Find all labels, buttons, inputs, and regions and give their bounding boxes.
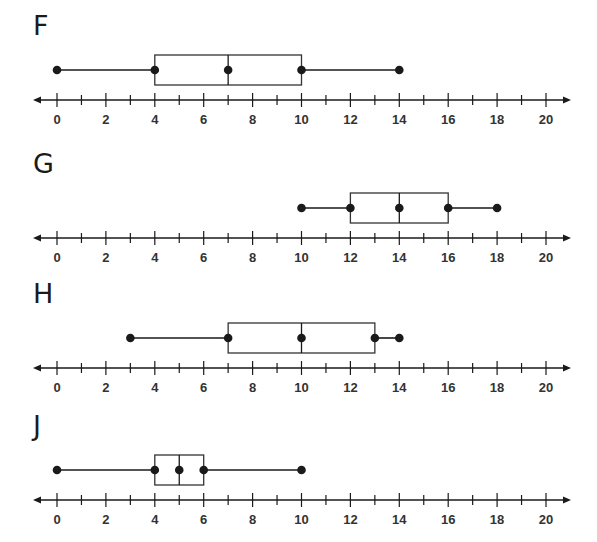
tick-label: 10 [294, 250, 308, 265]
tick-label: 14 [392, 380, 407, 395]
tick-label: 16 [441, 380, 455, 395]
tick-label: 10 [294, 512, 308, 527]
arrow-right-icon [563, 235, 571, 242]
tick-label: 18 [490, 380, 504, 395]
tick-label: 0 [53, 380, 60, 395]
tick-label: 18 [490, 512, 504, 527]
tick-label: 12 [343, 250, 357, 265]
tick-label: 14 [392, 250, 407, 265]
tick-label: 0 [53, 512, 60, 527]
arrow-left-icon [33, 497, 41, 504]
point-q3 [297, 66, 306, 75]
tick-label: 12 [343, 112, 357, 127]
point-q1 [151, 466, 160, 475]
point-q3 [444, 204, 453, 213]
point-q1 [224, 334, 233, 343]
tick-label: 4 [151, 250, 159, 265]
tick-label: 0 [53, 250, 60, 265]
tick-label: 6 [200, 112, 207, 127]
tick-label: 6 [200, 250, 207, 265]
tick-label: 16 [441, 112, 455, 127]
point-q3 [371, 334, 380, 343]
tick-label: 4 [151, 512, 159, 527]
tick-label: 6 [200, 380, 207, 395]
tick-label: 18 [490, 250, 504, 265]
tick-label: 10 [294, 380, 308, 395]
tick-label: 0 [53, 112, 60, 127]
arrow-right-icon [563, 97, 571, 104]
point-min [126, 334, 135, 343]
point-max [395, 334, 404, 343]
point-q1 [151, 66, 160, 75]
box-plot-panel-g: G02468101214161820 [0, 138, 597, 273]
point-median [224, 66, 233, 75]
tick-label: 14 [392, 512, 407, 527]
tick-label: 2 [102, 250, 109, 265]
tick-label: 20 [539, 112, 553, 127]
arrow-left-icon [33, 365, 41, 372]
tick-label: 6 [200, 512, 207, 527]
tick-label: 8 [249, 380, 256, 395]
point-min [53, 66, 62, 75]
arrow-right-icon [563, 365, 571, 372]
arrow-left-icon [33, 97, 41, 104]
point-max [493, 204, 502, 213]
box-plot-panel-j: J02468101214161820 [0, 400, 597, 535]
arrow-right-icon [563, 497, 571, 504]
tick-label: 18 [490, 112, 504, 127]
point-median [395, 204, 404, 213]
tick-label: 20 [539, 380, 553, 395]
box-plot-svg: 02468101214161820 [0, 0, 597, 135]
box-plot-panel-h: H02468101214161820 [0, 268, 597, 403]
box-plot-svg: 02468101214161820 [0, 400, 597, 535]
arrow-left-icon [33, 235, 41, 242]
point-max [297, 466, 306, 475]
tick-label: 10 [294, 112, 308, 127]
tick-label: 2 [102, 112, 109, 127]
point-q1 [346, 204, 355, 213]
point-min [297, 204, 306, 213]
tick-label: 20 [539, 512, 553, 527]
tick-label: 2 [102, 380, 109, 395]
box-plot-panel-f: F02468101214161820 [0, 0, 597, 135]
point-q3 [199, 466, 208, 475]
point-median [297, 334, 306, 343]
box-plot-svg: 02468101214161820 [0, 138, 597, 273]
tick-label: 8 [249, 512, 256, 527]
point-median [175, 466, 184, 475]
box-plot-svg: 02468101214161820 [0, 268, 597, 403]
point-min [53, 466, 62, 475]
tick-label: 16 [441, 250, 455, 265]
tick-label: 2 [102, 512, 109, 527]
tick-label: 14 [392, 112, 407, 127]
tick-label: 8 [249, 250, 256, 265]
tick-label: 4 [151, 380, 159, 395]
tick-label: 16 [441, 512, 455, 527]
tick-label: 4 [151, 112, 159, 127]
tick-label: 20 [539, 250, 553, 265]
tick-label: 12 [343, 380, 357, 395]
tick-label: 12 [343, 512, 357, 527]
tick-label: 8 [249, 112, 256, 127]
point-max [395, 66, 404, 75]
